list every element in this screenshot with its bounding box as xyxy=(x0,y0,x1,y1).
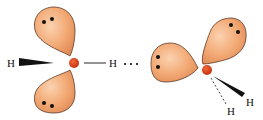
lone-pair-lobe-bottom-left xyxy=(34,70,75,113)
hydrogen-bond-diagram: H H H H xyxy=(0,0,263,120)
lone-pair-lobe-top-left xyxy=(34,7,75,56)
lone-pair-lobe-left-right xyxy=(151,43,198,82)
hydrogen-label-bonded: H xyxy=(109,57,117,69)
electron-icon xyxy=(156,55,160,59)
electron-icon xyxy=(50,17,54,21)
wedge-bond-icon xyxy=(213,76,245,97)
electron-icon xyxy=(236,30,240,34)
wedge-bond-icon xyxy=(19,58,54,66)
left-water-molecule: H H xyxy=(7,7,117,113)
electron-icon xyxy=(42,20,46,24)
right-water-molecule: H H xyxy=(151,18,254,117)
oxygen-atom-right xyxy=(202,65,212,75)
hydrogen-label-right-dash: H xyxy=(227,105,235,117)
electron-icon xyxy=(229,23,233,27)
hydrogen-label-left-wedge: H xyxy=(7,57,15,69)
oxygen-atom-left xyxy=(69,58,79,68)
lone-pair-lobe-top-right xyxy=(202,18,246,64)
hydrogen-label-right-wedge: H xyxy=(246,96,254,108)
electron-icon xyxy=(50,104,54,108)
electron-icon xyxy=(156,65,160,69)
electron-icon xyxy=(42,101,46,105)
hydrogen-bond-dots xyxy=(124,63,138,65)
